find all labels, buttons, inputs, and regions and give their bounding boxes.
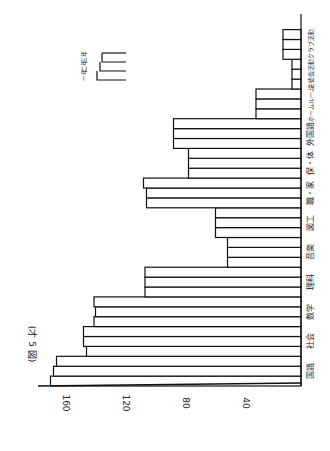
y-tick-label: 120 [121,394,131,411]
category-labels: 国語社会数学理科音楽図工職・家保・体外国語ホームルーム生徒会活動クラブ活動 [305,29,315,379]
bar [84,327,302,337]
bar [84,337,302,347]
legend-swatch [100,62,126,71]
bar [256,109,301,119]
bar [292,69,301,79]
y-tick-label: 80 [181,397,191,409]
bar [256,89,301,99]
chart-title-text: (才 5 図) [27,326,38,362]
category-label: 図工 [306,215,315,231]
category-label: 国語 [305,363,315,379]
category-label: 保・体 [305,151,315,175]
bar-group [145,267,301,297]
bar [57,356,302,366]
bar-chart: 4080120160 国語社会数学理科音楽図工職・家保・体外国語ホームルーム生徒… [0,0,330,451]
bar [145,277,301,287]
bar [145,287,301,297]
bar [283,30,301,40]
category-label: 音楽 [305,244,315,260]
chart-canvas: 4080120160 国語社会数学理科音楽図工職・家保・体外国語ホームルーム生徒… [0,0,330,451]
bar [216,218,302,228]
category-label: 外国語 [305,122,315,146]
bar [216,228,302,238]
y-axis-ticks: 4080120160 [61,394,251,411]
bar-group [228,238,302,268]
y-tick-label: 40 [241,397,251,409]
bar-group [174,119,302,149]
bar [256,99,301,109]
bar-group [144,178,302,208]
bar-group [292,59,301,89]
bar-group [51,356,302,386]
bar [87,346,302,356]
bar [96,307,302,317]
bar [94,317,301,327]
category-label: 職・家 [305,181,315,205]
bar [283,40,301,50]
legend-swatch [97,71,126,80]
bar-groups [51,30,302,386]
chart-title: (才 5 図) [27,326,38,362]
bar-group [283,30,301,60]
bar [147,188,302,198]
bar [94,297,301,307]
bar [174,119,302,129]
bar-group [216,208,302,238]
bar [292,59,301,69]
bar [228,238,302,248]
category-label: ホームルーム [307,86,314,122]
bar [189,168,302,178]
category-label: クラブ活動 [307,29,315,59]
bar [228,257,302,267]
bar-group [256,89,301,119]
bar [228,247,302,257]
bar-group [94,297,301,327]
bar [292,79,301,89]
bar [174,139,302,149]
bar [174,129,302,139]
bar [145,267,301,277]
bar-group [189,148,302,178]
category-label: 数学 [305,304,315,320]
category-label: 理科 [305,274,315,290]
y-tick-label: 160 [61,394,71,411]
legend: 一年二年三年 [80,51,126,81]
category-label: 社会 [305,333,315,349]
category-label: 生徒会活動 [307,59,315,89]
bar [283,49,301,59]
bar [144,178,302,188]
legend-swatch [102,53,126,62]
bar [189,158,302,168]
bar [216,208,302,218]
bar-group [84,327,302,357]
bar [189,148,302,158]
bar [54,366,302,376]
legend-label: 三年 [80,51,88,63]
bar [147,198,302,208]
